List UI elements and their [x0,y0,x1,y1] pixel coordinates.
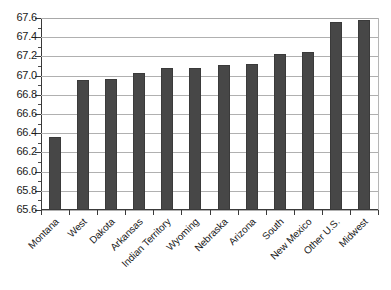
y-axis-tick-label: 65.8 [0,185,37,196]
bar [218,65,230,210]
bar [358,20,370,210]
y-axis-tick-label: 67.6 [0,12,37,23]
plot-right-border [378,18,379,210]
y-axis-tick-label: 67.4 [0,31,37,42]
bar [302,52,314,210]
bar [246,64,258,210]
bar [49,137,61,210]
y-axis-tick-label: 67.0 [0,70,37,81]
y-axis-tick-label: 66.8 [0,89,37,100]
x-axis-tick-label: Montana [26,216,61,251]
bar [274,54,286,210]
y-axis-tick-label: 66.2 [0,146,37,157]
bar [330,22,342,210]
bar [77,80,89,210]
bar [133,73,145,210]
bar-chart: 67.667.467.267.066.866.666.466.266.065.8… [0,0,391,290]
x-axis-tick-label: South [260,216,286,242]
y-axis-tick-label: 67.2 [0,50,37,61]
y-axis-tick-label: 66.4 [0,127,37,138]
bars-layer [41,18,378,210]
bar [189,68,201,210]
bar [161,68,173,210]
bar [105,79,117,210]
y-axis-tick-label: 66.0 [0,166,37,177]
x-axis-tick-label: Midwest [337,216,370,249]
x-axis-tick-label: West [65,216,88,239]
y-axis-tick-label: 66.6 [0,108,37,119]
x-axis-labels: MontanaWestDakotaArkansasIndian Territor… [0,210,391,290]
x-axis-tick-label: Arizona [226,216,257,247]
